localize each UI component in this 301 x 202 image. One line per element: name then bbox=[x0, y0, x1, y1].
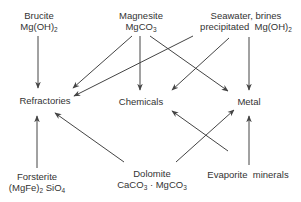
magnesite-formula: MgCO3 bbox=[114, 21, 168, 32]
chemicals-label: Chemicals bbox=[119, 96, 163, 107]
node-seawater: Seawater, brines precipitated Mg(OH)2 bbox=[196, 10, 296, 32]
node-metal: Metal bbox=[234, 96, 264, 107]
node-refractories: Refractories bbox=[18, 95, 72, 106]
node-dolomite: Dolomite CaCO3 · MgCO3 bbox=[116, 168, 188, 190]
edge-dolomite-refractories bbox=[55, 113, 124, 162]
edge-evaporite-chemicals bbox=[172, 111, 228, 151]
node-magnesite: Magnesite MgCO3 bbox=[114, 10, 168, 32]
edge-magnesite-refractories bbox=[73, 36, 132, 88]
forsterite-formula: (MgFe)2 SiO4 bbox=[6, 182, 68, 193]
magnesite-name: Magnesite bbox=[114, 10, 168, 21]
node-chemicals: Chemicals bbox=[118, 96, 164, 107]
evaporite-label: Evaporite minerals bbox=[207, 169, 288, 180]
node-forsterite: Forsterite (MgFe)2 SiO4 bbox=[6, 171, 68, 193]
refractories-label: Refractories bbox=[19, 95, 70, 106]
seawater-name: Seawater, brines bbox=[196, 10, 296, 21]
dolomite-formula: CaCO3 · MgCO3 bbox=[116, 179, 188, 190]
metal-label: Metal bbox=[237, 96, 260, 107]
edge-magnesite-metal bbox=[150, 36, 228, 91]
edge-seawater-chemicals bbox=[172, 38, 229, 90]
brucite-name: Brucite bbox=[18, 10, 60, 21]
node-evaporite: Evaporite minerals bbox=[206, 169, 290, 180]
dolomite-name: Dolomite bbox=[116, 168, 188, 179]
seawater-formula: precipitated Mg(OH)2 bbox=[196, 21, 296, 32]
brucite-formula: Mg(OH)2 bbox=[18, 21, 60, 32]
node-brucite: Brucite Mg(OH)2 bbox=[18, 10, 60, 32]
edge-dolomite-metal bbox=[176, 110, 234, 162]
forsterite-name: Forsterite bbox=[6, 171, 68, 182]
